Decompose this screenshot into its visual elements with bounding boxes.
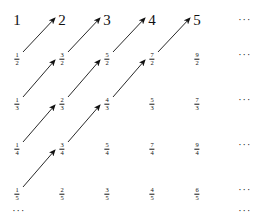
cell-fraction: 65 <box>194 179 199 202</box>
cell-integer-4: 4 <box>148 13 156 28</box>
cell-fraction: 13 <box>14 89 19 112</box>
diagonal-arrow-icon <box>113 60 145 97</box>
numerator: 5 <box>104 142 109 149</box>
bottom-right-ellipsis: ··· <box>238 207 251 216</box>
numerator: 7 <box>149 52 154 59</box>
numerator: 9 <box>194 52 199 59</box>
denominator: 3 <box>59 105 64 112</box>
cell-fraction: 52 <box>104 44 109 67</box>
denominator: 3 <box>14 105 19 112</box>
cell-fraction: 15 <box>14 179 19 202</box>
numerator: 9 <box>194 142 199 149</box>
diagonal-arrow-icon <box>23 150 55 187</box>
denominator: 4 <box>14 150 19 157</box>
denominator: 2 <box>194 60 199 67</box>
denominator: 5 <box>104 195 109 202</box>
cell-integer-3: 3 <box>103 13 111 28</box>
cell-fraction: 53 <box>149 89 154 112</box>
cell-fraction: 94 <box>194 134 199 157</box>
cell-fraction: 72 <box>149 44 154 67</box>
denominator: 2 <box>104 60 109 67</box>
row-3-ellipsis: ··· <box>238 96 251 105</box>
denominator: 3 <box>104 105 109 112</box>
denominator: 5 <box>149 195 154 202</box>
diagonal-arrow-icon <box>68 60 100 97</box>
cell-fraction: 32 <box>59 44 64 67</box>
diagonal-arrows <box>0 0 276 224</box>
diagonal-arrow-icon <box>113 18 145 52</box>
row-4-ellipsis: ··· <box>238 141 251 150</box>
diagonal-arrow-icon <box>158 18 190 52</box>
rationals-enumeration-diagram: 1 2 3 4 5 ··· 12 32 52 72 92 ··· 13 23 4… <box>0 0 276 224</box>
numerator: 5 <box>149 97 154 104</box>
denominator: 4 <box>149 150 154 157</box>
numerator: 6 <box>194 187 199 194</box>
denominator: 4 <box>59 150 64 157</box>
cell-integer-5: 5 <box>193 13 201 28</box>
cell-fraction: 54 <box>104 134 109 157</box>
numerator: 1 <box>14 52 19 59</box>
row-2-ellipsis: ··· <box>238 51 251 60</box>
numerator: 3 <box>59 52 64 59</box>
diagonal-arrow-icon <box>68 105 100 142</box>
denominator: 3 <box>194 105 199 112</box>
diagonal-arrow-icon <box>23 60 55 97</box>
cell-fraction: 34 <box>59 134 64 157</box>
row-1-ellipsis: ··· <box>238 16 251 25</box>
numerator: 1 <box>14 97 19 104</box>
denominator: 5 <box>14 195 19 202</box>
denominator: 2 <box>14 60 19 67</box>
cell-fraction: 12 <box>14 44 19 67</box>
numerator: 7 <box>149 142 154 149</box>
cell-fraction: 45 <box>149 179 154 202</box>
row-5-ellipsis: ··· <box>238 186 251 195</box>
cell-fraction: 14 <box>14 134 19 157</box>
denominator: 4 <box>104 150 109 157</box>
diagonal-arrow-icon <box>68 18 100 52</box>
numerator: 2 <box>59 97 64 104</box>
denominator: 5 <box>59 195 64 202</box>
numerator: 5 <box>104 52 109 59</box>
diagonal-arrow-icon <box>23 18 55 52</box>
denominator: 5 <box>194 195 199 202</box>
numerator: 7 <box>194 97 199 104</box>
denominator: 2 <box>149 60 154 67</box>
cell-fraction: 73 <box>194 89 199 112</box>
denominator: 4 <box>194 150 199 157</box>
cell-fraction: 43 <box>104 89 109 112</box>
cell-fraction: 74 <box>149 134 154 157</box>
denominator: 3 <box>149 105 154 112</box>
numerator: 2 <box>59 187 64 194</box>
denominator: 2 <box>59 60 64 67</box>
numerator: 3 <box>59 142 64 149</box>
cell-integer-1: 1 <box>13 13 21 28</box>
cell-integer-2: 2 <box>58 13 66 28</box>
numerator: 4 <box>149 187 154 194</box>
numerator: 3 <box>104 187 109 194</box>
cell-fraction: 25 <box>59 179 64 202</box>
numerator: 4 <box>104 97 109 104</box>
cell-fraction: 92 <box>194 44 199 67</box>
numerator: 1 <box>14 187 19 194</box>
cell-fraction: 23 <box>59 89 64 112</box>
diagonal-arrow-icon <box>23 105 55 142</box>
bottom-left-ellipsis: ··· <box>12 207 25 216</box>
numerator: 1 <box>14 142 19 149</box>
cell-fraction: 35 <box>104 179 109 202</box>
